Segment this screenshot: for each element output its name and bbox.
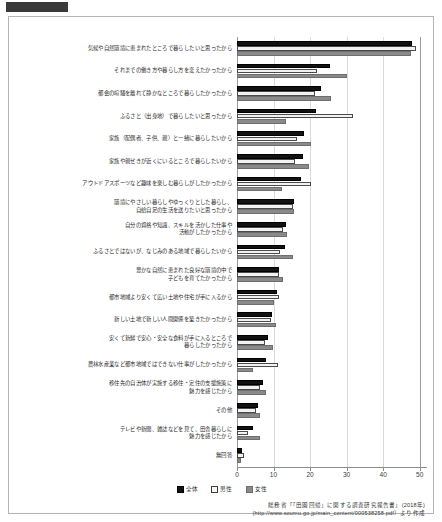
bar-row: 移住先の自治体が実施する移住・定住の支援施策に 魅力を感じたから [21,376,427,399]
bar-female [237,232,287,237]
bar-male [237,204,293,209]
bar-female [237,74,347,79]
bar-female [237,390,266,395]
bar-female [237,345,273,350]
bar-female [237,300,274,305]
category-label: 環境にやさしい暮らしやゆっくりとした暮らし、 自給自足の生活を送りたいと思ったか… [21,199,237,213]
x-tick-label: 10 [270,471,277,478]
bar-male [237,182,311,187]
bar-row: 環境にやさしい暮らしやゆっくりとした暮らし、 自給自足の生活を送りたいと思ったか… [21,195,427,218]
category-label: 家族（配偶者、子供、親）と一緒に暮らしたいから [21,135,237,142]
bar-female [237,142,311,147]
bar-male [237,431,248,436]
bar-total [237,403,258,408]
category-label: 家族や親せきが近くにいるところで暮らしたいから [21,158,237,165]
bar-row: 無回答 [21,444,427,467]
bar-row: 気候や自然環境に恵まれたところで暮らしたいと思ったから [21,37,427,60]
bar-group [237,150,427,173]
bar-male [237,137,297,142]
bar-total [237,426,253,431]
legend-swatch-female-icon [246,486,253,493]
bar-male [237,46,416,51]
source-citation: 総務省「「田園回帰」に関する調査研究報告書」(2018年) (http://ww… [253,501,425,517]
bar-male [237,385,260,390]
x-axis-line [237,467,427,468]
category-label: 自分の資格や知識、スキルを活かした仕事や 活動がしたかったから [21,222,237,236]
category-label: ふるさと（出身地）で暮らしたいと思ったから [21,113,237,120]
bar-male [237,318,271,323]
bar-row: それまでの働き方や暮らし方を変えたかったから [21,60,427,83]
chart-frame: 気候や自然環境に恵まれたところで暮らしたいと思ったからそれまでの働き方や暮らし方… [8,16,434,514]
chart-legend: 全体男性女性 [9,485,435,493]
category-label: 豊かな自然に恵まれた良好な環境の中で 子どもを育てたかったから [21,267,237,281]
bar-female [237,209,294,214]
bar-group [237,60,427,83]
bar-row: 自分の資格や知識、スキルを活かした仕事や 活動がしたかったから [21,218,427,241]
legend-item-male: 男性 [211,485,233,493]
bar-total [237,154,303,159]
category-label: その他 [21,407,237,414]
category-label: 新しい土地で新しい人間関係を築きたかったから [21,316,237,323]
bar-group [237,37,427,60]
bar-female [237,413,260,418]
bar-male [237,250,280,255]
category-label: 移住先の自治体が実施する移住・定住の支援施策に 魅力を感じたから [21,380,237,394]
source-line-2: (http://www.soumu.go.jp/main_content/000… [253,509,425,517]
bar-total [237,335,268,340]
bar-female [237,277,283,282]
x-tick-label: 0 [235,471,239,478]
bar-group [237,422,427,445]
bar-group [237,82,427,105]
category-label: 安くて新鮮で安心・安全な食料が手に入るところで 暮らしたかったから [21,335,237,349]
bar-female [237,458,241,463]
bar-group [237,263,427,286]
bar-total [237,312,272,317]
bar-total [237,199,294,204]
bar-row: その他 [21,399,427,422]
legend-label: 女性 [255,485,268,493]
bar-female [237,368,253,373]
category-label: 農林水産業など都市地域ではできない仕事がしたかったから [21,361,237,368]
legend-item-total: 全体 [177,485,199,493]
bar-row: 都会の喧騒を離れて静かなところで暮らしたかったから [21,82,427,105]
bar-row: 安くて新鮮で安心・安全な食料が手に入るところで 暮らしたかったから [21,331,427,354]
bar-row: ふるさとではないが、なじみのある地域で暮らしたいから [21,241,427,264]
category-label: 無回答 [21,452,237,459]
bar-total [237,131,304,136]
bar-total [237,380,263,385]
category-label: ふるさとではないが、なじみのある地域で暮らしたいから [21,248,237,255]
bar-total [237,358,266,363]
legend-label: 全体 [186,485,199,493]
bar-female [237,96,331,101]
bar-male [237,114,353,119]
bar-group [237,354,427,377]
window-tab-stub [6,2,68,12]
legend-item-female: 女性 [246,485,268,493]
category-label: 気候や自然環境に恵まれたところで暮らしたいと思ったから [21,45,237,52]
bar-row: 家族や親せきが近くにいるところで暮らしたいから [21,150,427,173]
bar-total [237,267,279,272]
bar-total [237,448,242,453]
bar-female [237,255,293,260]
bar-row: 農林水産業など都市地域ではできない仕事がしたかったから [21,354,427,377]
bar-male [237,295,279,300]
bar-male [237,91,315,96]
bar-group [237,309,427,332]
x-tick-label: 40 [379,471,386,478]
bar-group [237,128,427,151]
bar-male [237,453,244,458]
x-axis: 01020304050 [237,467,427,481]
bar-total [237,86,321,91]
bar-rows: 気候や自然環境に恵まれたところで暮らしたいと思ったからそれまでの働き方や暮らし方… [21,37,427,467]
bar-male [237,340,265,345]
bar-row: アウトドアスポーツなど趣味を楽しむ暮らしがしたかったから [21,173,427,196]
x-tick-label: 30 [343,471,350,478]
bar-total [237,109,316,114]
chart-screenshot: 気候や自然環境に恵まれたところで暮らしたいと思ったからそれまでの働き方や暮らし方… [0,0,442,522]
category-label: 都市地域より安くて広い土地や住宅が手に入るから [21,294,237,301]
legend-swatch-male-icon [211,486,218,493]
bar-group [237,286,427,309]
bar-total [237,64,330,69]
bar-male [237,227,283,232]
bar-female [237,323,276,328]
